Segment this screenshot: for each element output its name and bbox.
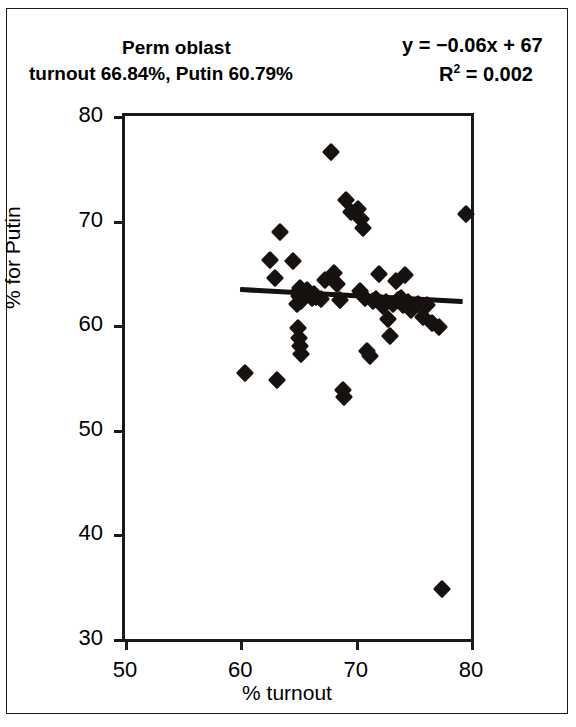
- regression-equation: y = −0.06x + 67: [402, 34, 543, 57]
- r-squared-prefix: R: [439, 63, 453, 85]
- y-axis-tick: [114, 534, 125, 537]
- scatter-point: [270, 223, 288, 241]
- scatter-point: [266, 269, 284, 287]
- scatter-point: [433, 580, 451, 598]
- scatter-points-layer: [125, 116, 471, 639]
- x-axis-tick-label: 50: [95, 657, 155, 683]
- y-axis-tick-label: 40: [49, 520, 103, 546]
- x-axis-tick: [125, 639, 128, 650]
- y-axis-tick-label: 80: [49, 102, 103, 128]
- scatter-point: [261, 251, 279, 269]
- scatter-point: [284, 252, 302, 270]
- y-axis-tick: [114, 221, 125, 224]
- y-axis-tick: [114, 325, 125, 328]
- scatter-point: [268, 370, 286, 388]
- y-axis-tick: [114, 116, 125, 119]
- plot-area: 30405060708050607080: [122, 113, 474, 642]
- y-axis-tick-label: 70: [49, 207, 103, 233]
- y-axis-title: % for Putin: [1, 206, 25, 309]
- r-squared-annotation: R2 = 0.002: [439, 63, 533, 86]
- x-axis-title: % turnout: [7, 681, 567, 705]
- chart-subtitle-line2: turnout 66.84%, Putin 60.79%: [29, 63, 293, 85]
- x-axis-tick: [240, 639, 243, 650]
- scatter-point: [236, 364, 254, 382]
- chart-title-line1: Perm oblast: [122, 37, 231, 59]
- y-axis-tick: [114, 639, 125, 642]
- x-axis-tick-label: 80: [441, 657, 501, 683]
- y-axis-tick-label: 50: [49, 416, 103, 442]
- scatter-point: [457, 205, 475, 223]
- x-axis-tick: [471, 639, 474, 650]
- x-axis-tick-label: 60: [210, 657, 270, 683]
- y-axis-tick-label: 60: [49, 311, 103, 337]
- scatter-point: [381, 326, 399, 344]
- r-squared-value: = 0.002: [460, 63, 533, 85]
- scatter-point: [370, 265, 388, 283]
- y-axis-tick-label: 30: [49, 625, 103, 651]
- figure-frame: Perm oblast turnout 66.84%, Putin 60.79%…: [6, 8, 568, 714]
- scatter-point: [322, 142, 340, 160]
- x-axis-tick-label: 70: [326, 657, 386, 683]
- x-axis-tick: [356, 639, 359, 650]
- y-axis-tick: [114, 430, 125, 433]
